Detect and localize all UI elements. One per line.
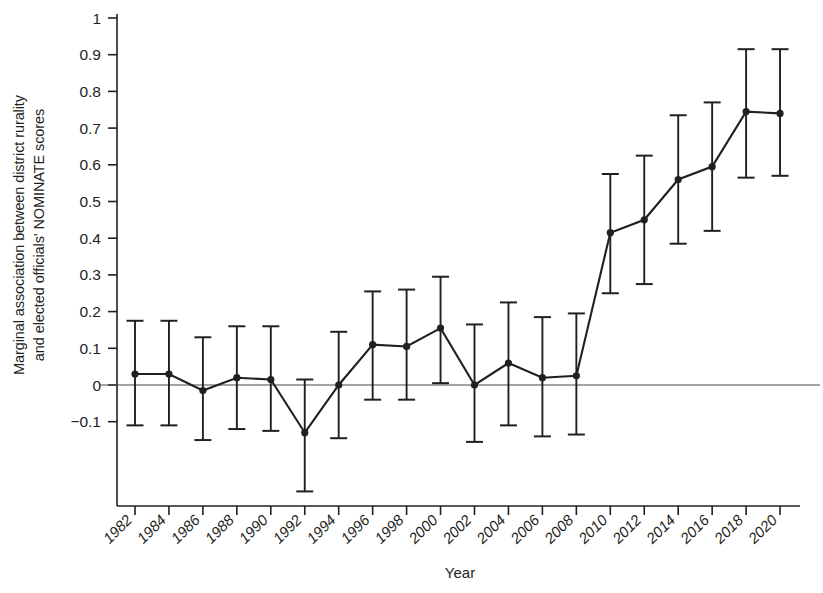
data-point-marker	[709, 163, 716, 170]
x-tick-label: 1990	[235, 511, 271, 547]
data-point-marker	[641, 216, 648, 223]
data-point-marker	[199, 387, 206, 394]
x-tick-label: 1986	[167, 511, 203, 547]
data-point-marker	[437, 325, 444, 332]
x-tick-label: 1984	[133, 511, 169, 547]
x-tick-label: 2002	[438, 511, 475, 548]
x-tick-label: 2012	[608, 511, 645, 548]
x-tick-label: 1988	[201, 511, 237, 547]
x-tick-label: 1998	[371, 511, 407, 547]
data-point-marker	[776, 110, 783, 117]
data-point-marker	[131, 370, 138, 377]
x-tick-label: 2014	[642, 511, 678, 547]
x-tick-label: 2020	[744, 511, 781, 548]
line-chart-plot: 10.90.80.70.60.50.40.30.20.10−0.1 198219…	[0, 0, 823, 593]
x-tick-label: 2018	[710, 511, 747, 548]
data-point-marker	[403, 343, 410, 350]
y-tick-label: −0.1	[70, 413, 101, 430]
error-bars	[127, 49, 789, 491]
x-tick-label: 2004	[472, 511, 508, 547]
data-point-marker	[335, 381, 342, 388]
data-point-marker	[301, 429, 308, 436]
y-tick-label: 0.2	[79, 303, 101, 320]
x-axis-ticks: 1982198419861988199019921994199619982000…	[100, 506, 781, 547]
y-tick-label: 0.3	[79, 266, 101, 283]
data-point-marker	[369, 341, 376, 348]
x-tick-label: 2008	[540, 511, 577, 548]
x-tick-label: 2006	[506, 511, 543, 548]
data-point-marker	[471, 381, 478, 388]
x-tick-label: 1996	[337, 511, 373, 547]
y-tick-label: 0.1	[79, 340, 101, 357]
x-tick-label: 2016	[676, 511, 713, 548]
x-tick-label: 2010	[574, 511, 611, 548]
data-point-markers	[131, 108, 783, 436]
data-point-marker	[539, 374, 546, 381]
data-point-marker	[233, 374, 240, 381]
data-point-marker	[607, 229, 614, 236]
figure-container: Marginal association between district ru…	[0, 0, 823, 593]
y-tick-label: 1	[92, 10, 101, 27]
y-tick-label: 0.5	[79, 193, 101, 210]
x-tick-label: 1982	[100, 511, 136, 547]
data-point-marker	[675, 176, 682, 183]
y-tick-label: 0.7	[79, 120, 101, 137]
data-point-marker	[743, 108, 750, 115]
data-point-marker	[267, 376, 274, 383]
y-tick-label: 0.4	[79, 230, 101, 247]
data-point-marker	[505, 359, 512, 366]
y-axis-ticks: 10.90.80.70.60.50.40.30.20.10−0.1	[70, 10, 117, 431]
x-tick-label: 1992	[269, 511, 305, 547]
y-tick-label: 0.6	[79, 156, 101, 173]
data-point-marker	[573, 372, 580, 379]
y-tick-label: 0.8	[79, 83, 101, 100]
y-tick-label: 0.9	[79, 46, 101, 63]
x-tick-label: 1994	[303, 511, 339, 547]
x-tick-label: 2000	[404, 511, 441, 548]
data-point-marker	[165, 370, 172, 377]
